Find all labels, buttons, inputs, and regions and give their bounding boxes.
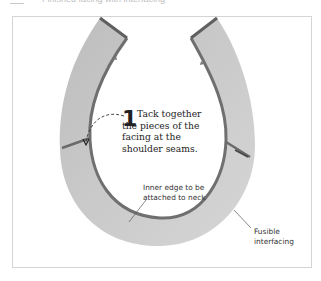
fusible-leader (234, 210, 251, 228)
step-number: 1 (122, 109, 137, 129)
fusible-interfacing-label: Fusible interfacing (254, 227, 314, 247)
inner-edge-label: Inner edge to be attached to neck (143, 183, 223, 203)
step-1-instruction: 1 Tack together the pieces of the facing… (122, 108, 217, 154)
